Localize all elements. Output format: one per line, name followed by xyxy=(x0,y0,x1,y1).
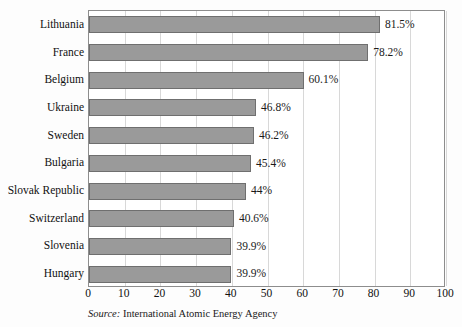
bar xyxy=(89,99,256,116)
bars-layer: 81.5%78.2%60.1%46.8%46.2%45.4%44%40.6%39… xyxy=(89,11,444,286)
bar-value-label: 45.4% xyxy=(256,158,286,170)
bar xyxy=(89,266,231,283)
x-tick-label: 0 xyxy=(85,288,91,300)
x-axis-tick-labels: 0102030405060708090100 xyxy=(88,288,445,304)
source-note: Source: International Atomic Energy Agen… xyxy=(88,308,278,319)
source-label: Source: xyxy=(88,308,120,319)
gridline xyxy=(446,11,447,286)
bar-value-label: 78.2% xyxy=(373,47,403,59)
bar-row: 44% xyxy=(89,177,444,205)
bar xyxy=(89,183,246,200)
bar-row: 81.5% xyxy=(89,11,444,39)
bar-row: 46.2% xyxy=(89,122,444,150)
x-tick-label: 100 xyxy=(436,288,453,300)
plot-area: 81.5%78.2%60.1%46.8%46.2%45.4%44%40.6%39… xyxy=(88,10,445,287)
bar-value-label: 46.8% xyxy=(261,102,291,114)
x-tick-label: 80 xyxy=(368,288,380,300)
bar-value-label: 40.6% xyxy=(239,213,269,225)
bar-value-label: 46.2% xyxy=(259,130,289,142)
x-tick-label: 90 xyxy=(404,288,416,300)
category-label: France xyxy=(53,38,84,66)
bar-value-label: 44% xyxy=(251,185,272,197)
x-tick-label: 30 xyxy=(189,288,201,300)
bar-value-label: 60.1% xyxy=(309,74,339,86)
x-tick-label: 60 xyxy=(296,288,308,300)
bar xyxy=(89,72,304,89)
bar xyxy=(89,210,234,227)
bar xyxy=(89,238,231,255)
category-label: Sweden xyxy=(48,121,84,149)
category-label: Bulgaria xyxy=(44,149,84,177)
source-text: International Atomic Energy Agency xyxy=(120,308,277,319)
bar-row: 40.6% xyxy=(89,205,444,233)
bar-row: 39.9% xyxy=(89,233,444,261)
bar xyxy=(89,155,251,172)
bar-value-label: 39.9% xyxy=(236,241,266,253)
bar-row: 46.8% xyxy=(89,94,444,122)
category-label: Ukraine xyxy=(47,93,84,121)
category-label: Switzerland xyxy=(29,204,84,232)
bar-value-label: 81.5% xyxy=(385,19,415,31)
x-tick-label: 40 xyxy=(225,288,237,300)
bar-value-label: 39.9% xyxy=(236,268,266,280)
bar xyxy=(89,44,368,61)
x-tick-label: 10 xyxy=(118,288,130,300)
category-label: Lithuania xyxy=(40,10,84,38)
bar-row: 45.4% xyxy=(89,150,444,178)
x-tick-label: 50 xyxy=(261,288,273,300)
category-label: Hungary xyxy=(44,259,84,287)
bar xyxy=(89,16,380,33)
category-label: Slovak Republic xyxy=(8,176,84,204)
category-label: Belgium xyxy=(44,65,84,93)
bar-row: 78.2% xyxy=(89,39,444,67)
category-label: Slovenia xyxy=(44,232,84,260)
bar-chart-figure: LithuaniaFranceBelgiumUkraineSwedenBulga… xyxy=(0,0,462,327)
bar-row: 60.1% xyxy=(89,66,444,94)
bar xyxy=(89,127,254,144)
x-tick-label: 20 xyxy=(154,288,166,300)
category-axis-labels: LithuaniaFranceBelgiumUkraineSwedenBulga… xyxy=(0,10,84,287)
x-tick-label: 70 xyxy=(332,288,344,300)
bar-row: 39.9% xyxy=(89,260,444,288)
